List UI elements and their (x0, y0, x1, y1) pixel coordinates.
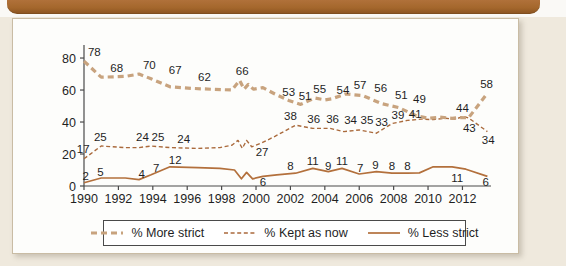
svg-text:1990: 1990 (70, 192, 98, 206)
svg-text:4: 4 (138, 168, 145, 180)
more-strict-line-swatch (90, 229, 124, 237)
svg-text:24: 24 (136, 131, 149, 143)
svg-text:54: 54 (336, 84, 349, 96)
svg-text:57: 57 (354, 79, 367, 91)
svg-text:78: 78 (88, 46, 101, 58)
svg-text:66: 66 (236, 65, 249, 77)
svg-text:7: 7 (153, 162, 159, 174)
title-banner (7, 0, 540, 14)
svg-text:62: 62 (198, 71, 211, 83)
svg-text:36: 36 (326, 113, 339, 125)
svg-text:44: 44 (456, 102, 469, 114)
svg-text:2006: 2006 (345, 192, 373, 206)
svg-text:27: 27 (256, 146, 269, 158)
svg-text:2000: 2000 (242, 192, 270, 206)
svg-text:34: 34 (344, 114, 357, 126)
svg-text:24: 24 (177, 133, 190, 145)
svg-text:1996: 1996 (173, 192, 201, 206)
gun-laws-opinion-line-chart: 0204060801990199219941996199820002002200… (13, 19, 518, 253)
svg-text:49: 49 (413, 93, 426, 105)
svg-text:51: 51 (299, 90, 312, 102)
svg-text:56: 56 (374, 82, 387, 94)
svg-text:33: 33 (375, 116, 388, 128)
svg-text:20: 20 (62, 148, 76, 162)
svg-text:36: 36 (307, 113, 320, 125)
less-strict-line-swatch (367, 229, 401, 237)
svg-text:2008: 2008 (380, 192, 408, 206)
svg-text:2012: 2012 (449, 192, 477, 206)
svg-text:2010: 2010 (414, 192, 442, 206)
svg-text:1994: 1994 (139, 192, 167, 206)
legend-item-more-strict: % More strict (90, 226, 204, 240)
svg-text:67: 67 (169, 64, 182, 76)
svg-text:35: 35 (361, 114, 374, 126)
kept-as-now-line-swatch (223, 229, 257, 237)
svg-text:58: 58 (480, 78, 493, 90)
svg-text:43: 43 (463, 122, 476, 134)
svg-text:80: 80 (62, 52, 76, 66)
svg-text:6: 6 (260, 176, 266, 188)
svg-text:5: 5 (97, 166, 103, 178)
svg-text:11: 11 (336, 155, 348, 167)
svg-text:41: 41 (409, 108, 422, 120)
legend-label-less-strict: % Less strict (408, 226, 479, 240)
svg-text:60: 60 (62, 84, 76, 98)
svg-text:9: 9 (325, 160, 331, 172)
svg-text:11: 11 (307, 155, 319, 167)
svg-text:70: 70 (143, 59, 156, 71)
svg-text:53: 53 (282, 86, 295, 98)
svg-text:68: 68 (110, 62, 123, 74)
svg-text:7: 7 (357, 162, 363, 174)
svg-text:1998: 1998 (208, 192, 236, 206)
svg-text:6: 6 (482, 176, 488, 188)
chart-panel: 0204060801990199219941996199820002002200… (12, 18, 519, 254)
svg-text:11: 11 (451, 172, 463, 184)
svg-text:25: 25 (94, 131, 107, 143)
svg-text:39: 39 (392, 109, 405, 121)
page-background: 0204060801990199219941996199820002002200… (0, 0, 566, 266)
svg-text:25: 25 (152, 131, 165, 143)
svg-text:17: 17 (77, 143, 90, 155)
legend-item-kept-as-now: % Kept as now (223, 226, 347, 240)
svg-text:8: 8 (287, 160, 293, 172)
svg-text:2: 2 (83, 170, 89, 182)
svg-text:40: 40 (62, 116, 76, 130)
svg-text:38: 38 (284, 110, 297, 122)
legend-item-less-strict: % Less strict (367, 226, 479, 240)
svg-text:34: 34 (482, 134, 495, 146)
svg-text:9: 9 (372, 159, 378, 171)
svg-text:8: 8 (389, 160, 395, 172)
svg-text:12: 12 (169, 154, 182, 166)
svg-text:55: 55 (313, 83, 326, 95)
svg-text:2004: 2004 (311, 192, 339, 206)
svg-text:8: 8 (404, 160, 410, 172)
svg-text:1992: 1992 (104, 192, 132, 206)
legend-label-more-strict: % More strict (131, 226, 204, 240)
legend-label-kept-as-now: % Kept as now (264, 226, 347, 240)
chart-legend: % More strict % Kept as now % Less stric… (103, 220, 466, 246)
svg-text:51: 51 (395, 89, 408, 101)
svg-text:2002: 2002 (277, 192, 305, 206)
